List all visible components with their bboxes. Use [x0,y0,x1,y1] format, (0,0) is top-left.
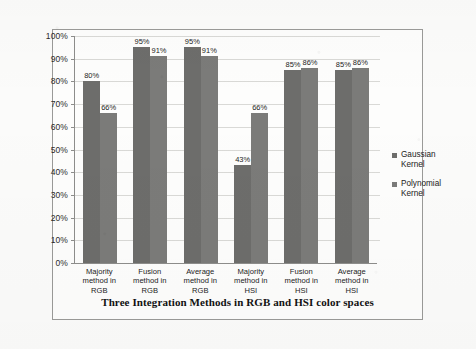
x-axis-category-line: RGB [74,286,125,295]
bar-value-label: 66% [252,103,267,112]
bar[interactable]: 86% [301,68,318,263]
bar-group: 43%66% [226,36,276,263]
y-axis-tick-label: 10% [51,235,68,245]
x-axis-title: Three Integration Methods in RGB and HSI… [52,296,423,308]
x-axis-category-label: Fusionmethod inRGB [125,267,176,295]
bar-value-label: 66% [101,103,116,112]
bar-value-label: 91% [151,46,166,55]
bar[interactable]: 95% [133,47,150,263]
chart-legend: GaussianKernelPolynomialKernel [392,150,472,208]
bar[interactable]: 80% [83,81,100,263]
x-axis-category-label: Majoritymethod inHSI [226,267,277,295]
plot-area-wrapper: 100%90%80%70%60%50%40%30%20%10%0% 80%66%… [74,36,377,264]
y-axis-tick-label: 70% [51,99,68,109]
x-axis-category-line: method in [125,276,176,285]
bar-group: 85%86% [276,36,326,263]
y-axis-tick-label: 40% [51,167,68,177]
legend-swatch-icon [392,153,397,158]
bar-group: 95%91% [125,36,175,263]
bar[interactable]: 85% [335,70,352,263]
x-axis-category-line: HSI [327,286,378,295]
bar[interactable]: 86% [352,68,369,263]
bar-groups: 80%66%95%91%95%91%43%66%85%86%85%86% [75,36,377,263]
legend-label-line: Kernel [401,160,436,170]
bar-value-label: 43% [235,155,250,164]
x-axis-category-label: Averagemethod inRGB [175,267,226,295]
bar[interactable]: 43% [234,165,251,263]
y-axis-tick-label: 50% [51,145,68,155]
x-axis-category-line: method in [175,276,226,285]
y-axis-tick-label: 100% [46,31,68,41]
x-axis-category-labels: Majoritymethod inRGBFusionmethod inRGBAv… [74,267,377,295]
y-axis-tick [71,263,75,264]
legend-label: GaussianKernel [401,150,436,170]
bar-group: 85%86% [327,36,377,263]
x-axis-category-line: Average [327,267,378,276]
legend-label-line: Kernel [401,189,441,199]
x-axis-category-line: RGB [175,286,226,295]
bar-value-label: 91% [202,46,217,55]
y-axis-tick-label: 80% [51,76,68,86]
bar[interactable]: 91% [201,56,218,263]
x-axis-category-label: Averagemethod inHSI [327,267,378,295]
x-axis-category-line: Fusion [276,267,327,276]
x-axis-category-line: HSI [226,286,277,295]
x-axis-category-line: Fusion [125,267,176,276]
bar[interactable]: 66% [251,113,268,263]
bar-value-label: 85% [336,60,351,69]
x-axis-category-line: method in [276,276,327,285]
x-axis-category-line: method in [327,276,378,285]
legend-swatch-icon [392,182,397,187]
x-axis-category-line: method in [226,276,277,285]
x-axis-category-line: method in [74,276,125,285]
bar-group: 95%91% [176,36,226,263]
bar-value-label: 86% [302,58,317,67]
bar-value-label: 95% [185,37,200,46]
legend-item[interactable]: GaussianKernel [392,150,472,170]
legend-label-line: Polynomial [401,179,441,189]
y-axis-tick-label: 30% [51,190,68,200]
y-axis-tick-label: 60% [51,122,68,132]
y-axis-tick-label: 90% [51,54,68,64]
legend-item[interactable]: PolynomialKernel [392,179,472,199]
x-axis-category-line: HSI [276,286,327,295]
bar-value-label: 86% [353,58,368,67]
x-axis-category-line: Average [175,267,226,276]
x-axis-category-line: Majority [226,267,277,276]
bar-value-label: 95% [134,37,149,46]
bar[interactable]: 91% [150,56,167,263]
x-axis-category-label: Fusionmethod inHSI [276,267,327,295]
bar[interactable]: 95% [184,47,201,263]
bar-value-label: 85% [285,60,300,69]
legend-label: PolynomialKernel [401,179,441,199]
y-axis-tick-label: 20% [51,213,68,223]
bar-group: 80%66% [75,36,125,263]
bar-value-label: 80% [84,71,99,80]
y-axis-tick-label: 0% [56,258,69,268]
bar[interactable]: 66% [100,113,117,263]
bar[interactable]: 85% [284,70,301,263]
x-axis-category-line: Majority [74,267,125,276]
x-axis-category-line: RGB [125,286,176,295]
legend-label-line: Gaussian [401,150,436,160]
x-axis-category-label: Majoritymethod inRGB [74,267,125,295]
plot-area: 100%90%80%70%60%50%40%30%20%10%0% 80%66%… [74,36,377,264]
